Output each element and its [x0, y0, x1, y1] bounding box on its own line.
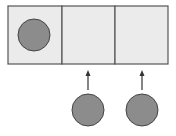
arrow-to-cell-2-icon — [86, 70, 91, 90]
circle-below-cell-2 — [72, 94, 104, 126]
cell-3 — [115, 6, 168, 64]
circle-below-cell-3 — [126, 94, 158, 126]
circle-in-cell-1 — [18, 19, 50, 51]
cell-2 — [62, 6, 115, 64]
diagram — [0, 0, 176, 136]
arrows — [86, 70, 145, 90]
arrow-to-cell-3-icon — [140, 70, 145, 90]
